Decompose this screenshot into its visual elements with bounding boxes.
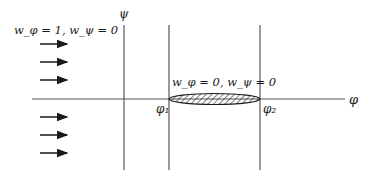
hatched-obstacle xyxy=(169,94,260,105)
inflow-arrows-upper xyxy=(40,44,67,80)
phi1-label: φ₁ xyxy=(156,103,169,115)
psi-axis-label: ψ xyxy=(119,8,128,20)
obstacle-condition-label: w_φ = 0, w_ψ = 0 xyxy=(172,77,276,89)
phi-axis-label: φ xyxy=(349,93,358,106)
inflow-condition-label: w_φ = 1, w_ψ = 0 xyxy=(14,25,118,37)
phi2-label: φ₂ xyxy=(263,103,276,115)
inflow-arrows-lower xyxy=(40,117,67,153)
